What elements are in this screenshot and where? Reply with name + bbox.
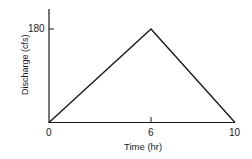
x-tick-label-10: 10	[229, 128, 240, 138]
hydrograph-line	[49, 29, 235, 123]
y-axis-title: Discharge (cfs)	[20, 35, 30, 95]
x-tick-label-0: 0	[46, 128, 52, 138]
x-axis-title: Time (hr)	[124, 142, 162, 152]
x-tick-label-6: 6	[148, 128, 154, 138]
y-tick-label-180: 180	[28, 24, 45, 34]
